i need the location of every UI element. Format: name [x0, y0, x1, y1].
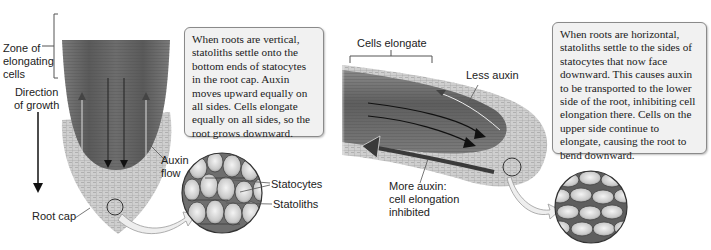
- horizontal-root-caption: When roots are horizontal, statoliths se…: [552, 22, 707, 154]
- more-auxin-label: More auxin: cell elongation inhibited: [389, 180, 459, 219]
- auxin-flow-label: Auxin flow: [161, 154, 189, 180]
- statocyte-magnified-left: [180, 150, 270, 240]
- zone-of-elongating-cells-label: Zone of elongating cells: [3, 42, 54, 81]
- statoliths-label: Statoliths: [273, 198, 318, 211]
- statocyte-magnified-right: [550, 168, 635, 248]
- gravitropism-figure: Zone of elongating cells Direction of gr…: [0, 0, 711, 250]
- root-cap-label: Root cap: [32, 210, 76, 223]
- less-auxin-label: Less auxin: [466, 69, 519, 82]
- vertical-root-caption: When roots are vertical, statoliths sett…: [184, 27, 324, 137]
- statocytes-label: Statocytes: [271, 178, 322, 191]
- direction-of-growth-label: Direction of growth: [14, 86, 59, 112]
- cells-elongate-label: Cells elongate: [357, 37, 427, 50]
